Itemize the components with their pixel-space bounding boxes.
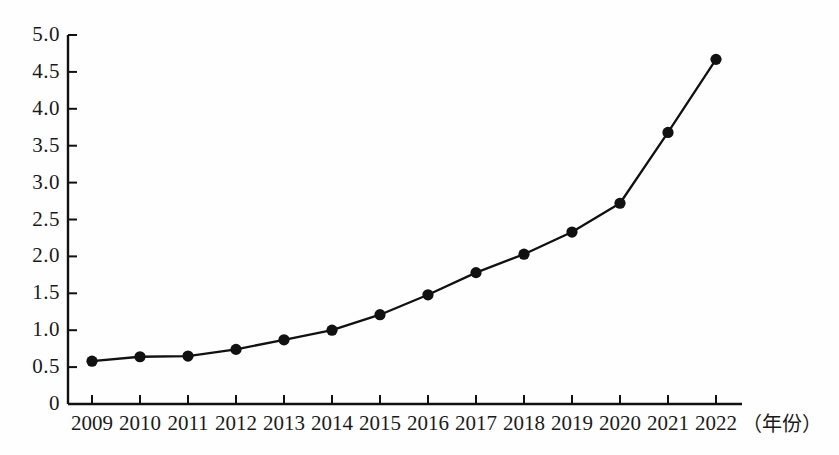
y-tick-label: 3.0 — [32, 172, 60, 193]
y-tick-label: 0 — [49, 393, 60, 414]
x-tick-label: 2010 — [114, 413, 166, 434]
y-tick-label: 2.5 — [32, 209, 60, 230]
data-point-marker — [230, 344, 241, 355]
series-markers — [86, 54, 721, 367]
data-point-marker — [422, 289, 433, 300]
data-point-marker — [326, 325, 337, 336]
y-tick-label: 3.5 — [32, 135, 60, 156]
data-point-marker — [518, 249, 529, 260]
x-axis-ticks — [92, 395, 716, 404]
data-point-marker — [278, 334, 289, 345]
x-tick-label: 2012 — [210, 413, 262, 434]
data-point-marker — [662, 127, 673, 138]
x-tick-label: 2015 — [354, 413, 406, 434]
x-tick-label: 2018 — [498, 413, 550, 434]
x-tick-label: 2016 — [402, 413, 454, 434]
x-tick-label: 2011 — [162, 413, 214, 434]
data-point-marker — [470, 267, 481, 278]
y-tick-label: 2.0 — [32, 245, 60, 266]
y-tick-label: 4.5 — [32, 61, 60, 82]
x-axis-unit-label: （年份） — [742, 414, 822, 434]
x-tick-label: 2013 — [258, 413, 310, 434]
line-chart: 00.51.01.52.02.53.03.54.04.55.0 20092010… — [0, 0, 839, 455]
x-tick-label: 2020 — [594, 413, 646, 434]
data-point-marker — [710, 54, 721, 65]
y-tick-label: 0.5 — [32, 356, 60, 377]
x-tick-label: 2021 — [642, 413, 694, 434]
x-tick-label: 2009 — [66, 413, 118, 434]
data-point-marker — [86, 356, 97, 367]
x-tick-label: 2017 — [450, 413, 502, 434]
data-point-marker — [374, 309, 385, 320]
y-axis-ticks — [68, 35, 77, 404]
y-tick-label: 1.5 — [32, 282, 60, 303]
data-point-marker — [566, 226, 577, 237]
data-point-marker — [134, 351, 145, 362]
y-tick-label: 4.0 — [32, 98, 60, 119]
data-point-marker — [614, 198, 625, 209]
x-tick-label: 2022 — [690, 413, 742, 434]
x-tick-label: 2014 — [306, 413, 358, 434]
y-tick-label: 1.0 — [32, 319, 60, 340]
data-point-marker — [182, 350, 193, 361]
chart-plot-area — [0, 0, 839, 455]
x-tick-label: 2019 — [546, 413, 598, 434]
series-line — [92, 59, 716, 361]
y-tick-label: 5.0 — [32, 24, 60, 45]
